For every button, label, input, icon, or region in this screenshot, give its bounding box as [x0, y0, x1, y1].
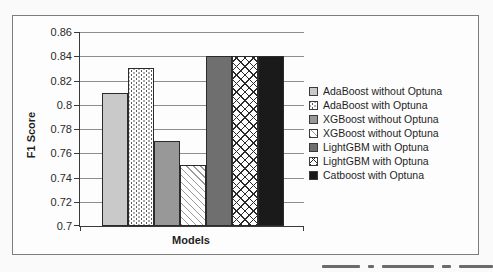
legend-swatch-icon [309, 115, 318, 124]
y-tick-label: 0.82 [20, 75, 72, 87]
bar-catboost-with-optuna [258, 56, 284, 226]
legend-row: LightGBM with Optuna [309, 155, 442, 167]
y-tick-mark [74, 129, 80, 130]
legend-row: Catboost with Optuna [309, 169, 442, 181]
y-tick-mark [74, 202, 80, 203]
figure-scan: F1 Score 0.70.720.740.760.780.80.820.840… [0, 0, 493, 272]
legend-swatch-icon [309, 101, 318, 110]
y-tick-label: 0.7 [20, 220, 72, 232]
x-axis-title: Models [131, 234, 251, 246]
legend-swatch-icon [309, 87, 318, 96]
y-tick-label: 0.78 [20, 123, 72, 135]
bar-lightgbm-with-optuna [206, 56, 232, 226]
y-tick-mark [74, 56, 80, 57]
legend-swatch-icon [309, 143, 318, 152]
gridline [80, 32, 304, 33]
legend-row: XGBoost without Optuna [309, 127, 442, 139]
y-tick-mark [74, 81, 80, 82]
legend-label: Catboost with Optuna [323, 169, 424, 181]
legend-label: AdaBoost with Optuna [323, 99, 427, 111]
legend-row: XGBoost without Optuna [309, 113, 442, 125]
bar-xgboost-without-optuna [154, 141, 180, 226]
legend-label: LightGBM with Optuna [323, 141, 429, 153]
legend-swatch-icon [309, 157, 318, 166]
y-tick-mark [74, 178, 80, 179]
legend-swatch-icon [309, 171, 318, 180]
y-tick-mark [74, 105, 80, 106]
bar-adaboost-without-optuna [102, 93, 128, 226]
legend-label: XGBoost without Optuna [323, 113, 439, 125]
y-tick-mark [74, 32, 80, 33]
legend: AdaBoost without OptunaAdaBoost with Opt… [309, 85, 442, 181]
bar-xgboost-without-optuna [180, 165, 206, 226]
bar-lightgbm-with-optuna [232, 56, 258, 226]
chart-frame: F1 Score 0.70.720.740.760.780.80.820.840… [12, 15, 479, 255]
y-tick-label: 0.8 [20, 99, 72, 111]
legend-row: LightGBM with Optuna [309, 141, 442, 153]
x-tick-mark [303, 226, 304, 231]
legend-label: AdaBoost without Optuna [323, 85, 442, 97]
x-tick-mark [80, 226, 81, 231]
y-tick-label: 0.72 [20, 196, 72, 208]
y-tick-label: 0.84 [20, 50, 72, 62]
bar-adaboost-with-optuna [128, 68, 154, 226]
legend-label: XGBoost without Optuna [323, 127, 439, 139]
plot-area: 0.70.720.740.760.780.80.820.840.86 [79, 32, 304, 227]
legend-label: LightGBM with Optuna [323, 155, 429, 167]
y-tick-label: 0.86 [20, 26, 72, 38]
legend-row: AdaBoost with Optuna [309, 99, 442, 111]
y-tick-label: 0.76 [20, 147, 72, 159]
y-tick-mark [74, 153, 80, 154]
y-tick-label: 0.74 [20, 172, 72, 184]
legend-swatch-icon [309, 129, 318, 138]
legend-row: AdaBoost without Optuna [309, 85, 442, 97]
page-caption-artifact [322, 265, 493, 268]
